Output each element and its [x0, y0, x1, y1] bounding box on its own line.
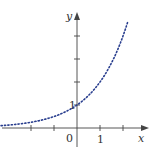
exponential-chart: x y 0 1 1	[0, 0, 156, 152]
origin-label: 0	[66, 132, 73, 145]
axes	[2, 12, 149, 147]
series-line-exponential	[1, 22, 128, 125]
x-tick-label-1: 1	[97, 133, 104, 146]
series	[1, 22, 128, 125]
x-axis-arrow-icon	[141, 125, 149, 131]
y-axis-label: y	[65, 10, 73, 23]
x-axis-label: x	[138, 132, 145, 145]
y-axis-arrow-icon	[74, 12, 80, 20]
